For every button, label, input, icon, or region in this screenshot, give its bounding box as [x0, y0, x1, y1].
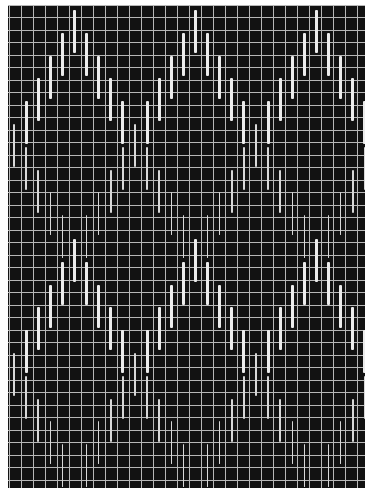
- thin-bar: [25, 376, 27, 419]
- grid-line-vertical: [45, 5, 46, 488]
- grid-line-vertical: [189, 5, 190, 488]
- thin-bar: [50, 421, 52, 464]
- grid-line-vertical: [93, 5, 94, 488]
- grid-line-vertical: [309, 5, 310, 488]
- thin-bar: [279, 170, 281, 213]
- thick-bar: [85, 33, 88, 76]
- thin-bar: [37, 170, 39, 213]
- grid-line-horizontal: [8, 105, 365, 106]
- grid-line-horizontal: [8, 417, 365, 418]
- thick-bar: [109, 307, 112, 350]
- thin-bar: [231, 399, 233, 442]
- thin-bar: [255, 124, 257, 167]
- grid-line-vertical: [333, 5, 334, 488]
- thick-bar: [182, 33, 185, 76]
- thick-bar: [194, 239, 197, 282]
- grid-line-vertical: [33, 5, 34, 488]
- thick-bar: [73, 10, 76, 53]
- grid-line-vertical: [69, 5, 70, 488]
- grid-line-horizontal: [8, 405, 365, 406]
- thick-bar: [267, 330, 270, 373]
- thick-bar: [182, 262, 185, 305]
- grid-line-vertical: [117, 5, 118, 488]
- grid-line-vertical: [105, 5, 106, 488]
- thick-bar: [339, 285, 342, 328]
- thin-bar: [279, 399, 281, 442]
- grid-line-vertical: [285, 5, 286, 488]
- thick-bar: [61, 33, 64, 76]
- thin-bar: [267, 147, 269, 190]
- thin-bar: [62, 444, 64, 487]
- thick-bar: [363, 330, 365, 373]
- thin-bar: [171, 421, 173, 464]
- thin-bar: [364, 376, 365, 419]
- thin-bar: [110, 170, 112, 213]
- thick-bar: [37, 78, 40, 121]
- thick-bar: [230, 307, 233, 350]
- op-art-canvas: [8, 5, 365, 488]
- thick-bar: [279, 307, 282, 350]
- grid-line-horizontal: [8, 367, 365, 368]
- thick-bar: [242, 330, 245, 373]
- thick-bar: [291, 285, 294, 328]
- grid-line-vertical: [357, 5, 358, 488]
- grid-line-vertical: [9, 5, 10, 488]
- grid-line-horizontal: [8, 442, 365, 443]
- thick-bar: [218, 285, 221, 328]
- thin-bar: [158, 399, 160, 442]
- grid-line-vertical: [345, 5, 346, 488]
- thick-bar: [242, 101, 245, 144]
- thin-bar: [292, 192, 294, 235]
- grid-line-vertical: [297, 5, 298, 488]
- grid-line-horizontal: [8, 5, 365, 6]
- thin-bar: [134, 353, 136, 396]
- thick-bar: [146, 330, 149, 373]
- grid-line-horizontal: [8, 342, 365, 343]
- grid-line-vertical: [321, 5, 322, 488]
- thick-bar: [73, 239, 76, 282]
- thin-bar: [340, 192, 342, 235]
- thin-bar: [146, 376, 148, 419]
- grid-line-horizontal: [8, 305, 365, 306]
- thick-bar: [170, 285, 173, 328]
- thick-bar: [303, 262, 306, 305]
- thick-bar: [85, 262, 88, 305]
- thick-bar: [206, 33, 209, 76]
- thick-bar: [351, 307, 354, 350]
- grid-line-horizontal: [8, 180, 365, 181]
- thin-bar: [110, 399, 112, 442]
- thick-bar: [158, 78, 161, 121]
- thick-bar: [121, 330, 124, 373]
- thin-bar: [37, 399, 39, 442]
- grid-line-vertical: [153, 5, 154, 488]
- grid-line-vertical: [237, 5, 238, 488]
- thick-bar: [267, 101, 270, 144]
- thick-bar: [327, 262, 330, 305]
- thin-bar: [13, 124, 15, 167]
- thick-bar: [230, 78, 233, 121]
- thin-bar: [25, 147, 27, 190]
- grid-line-horizontal: [8, 392, 365, 393]
- thin-bar: [183, 444, 185, 487]
- thin-bar: [183, 215, 185, 258]
- grid-line-horizontal: [8, 92, 365, 93]
- thick-bar: [170, 56, 173, 99]
- grid-line-horizontal: [8, 155, 365, 156]
- grid-line-vertical: [213, 5, 214, 488]
- thin-bar: [50, 192, 52, 235]
- grid-line-vertical: [129, 5, 130, 488]
- grid-line-vertical: [177, 5, 178, 488]
- thin-bar: [86, 215, 88, 258]
- grid-line-vertical: [225, 5, 226, 488]
- thick-bar: [25, 330, 28, 373]
- grid-line-horizontal: [8, 192, 365, 193]
- grid-line-vertical: [201, 5, 202, 488]
- thick-bar: [61, 262, 64, 305]
- thin-bar: [243, 147, 245, 190]
- thin-bar: [146, 147, 148, 190]
- grid-line-horizontal: [8, 430, 365, 431]
- thick-bar: [194, 10, 197, 53]
- grid-line-horizontal: [8, 117, 365, 118]
- thin-bar: [13, 353, 15, 396]
- grid-line-vertical: [81, 5, 82, 488]
